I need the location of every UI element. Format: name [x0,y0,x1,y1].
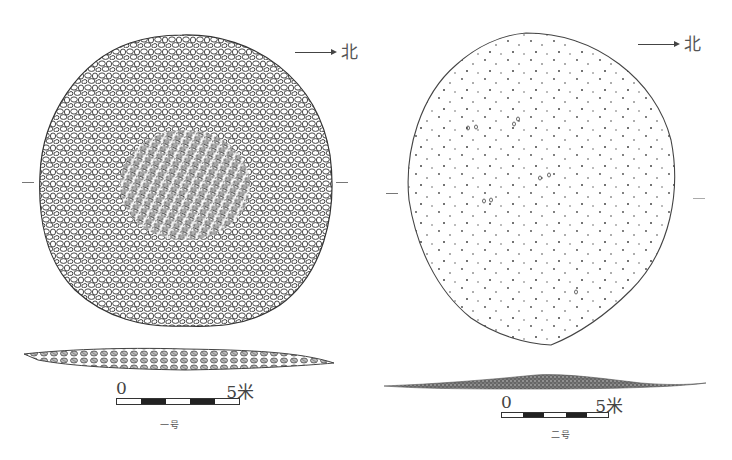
scale-start: 0 [501,392,512,412]
figure-caption: 一号 [160,418,180,431]
scale-bar: 0 5米 [501,392,609,418]
scale-bar: 0 5米 [116,378,240,405]
axis-tick-right [693,198,705,199]
figure-caption: 二号 [551,428,571,441]
feature-2-panel: 北 0 5米 二号 [366,0,732,460]
north-label: 北 [684,36,701,53]
scale-end: 5米 [595,392,623,417]
north-label: 北 [341,44,358,61]
arrow-right-icon [638,44,678,45]
scale-end: 5米 [226,378,254,403]
axis-tick-right [336,182,348,183]
feature-1-panel: 北 0 5米 一号 [0,0,366,460]
feature-2-section [384,375,706,389]
feature-2-drawing [366,0,732,460]
axis-tick-left [22,182,34,183]
arrow-right-icon [295,52,335,53]
axis-tick-left [386,193,398,194]
north-arrow: 北 [295,44,358,61]
north-arrow: 北 [638,36,701,53]
feature-1-section [24,348,334,370]
scale-start: 0 [116,378,127,398]
feature-2-outline [408,33,674,345]
